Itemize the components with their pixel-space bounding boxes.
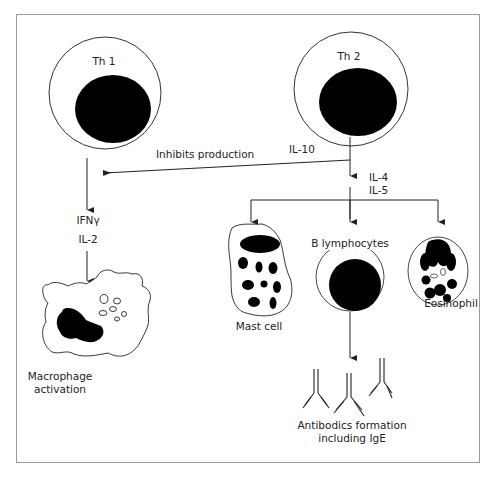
il5-label: IL-5 (369, 184, 388, 197)
b-lymphocytes-label: B lymphocytes (310, 237, 390, 250)
diagram-canvas (0, 0, 495, 479)
macrophage-label-line1: Macrophage (28, 370, 93, 383)
antibodies-label-line2: including IgE (318, 432, 386, 445)
th2-label: Th 2 (337, 50, 360, 63)
macrophage-label-line2: activation (34, 383, 86, 396)
il2-label: IL-2 (78, 233, 97, 246)
il10-inhibit-arrow (104, 160, 350, 173)
mast-cell-icon (229, 224, 292, 316)
eosinophil-label: Eosinophil (424, 297, 478, 310)
ifn-gamma-label: IFNγ (76, 214, 99, 227)
il4-label: IL-4 (369, 171, 388, 184)
antibodies-label-line1: Antibodics formation (297, 419, 406, 432)
macrophage-icon (43, 270, 151, 356)
inhibits-production-label: Inhibits production (156, 148, 254, 161)
il10-label: IL-10 (289, 143, 315, 156)
antibodies-icon (303, 358, 392, 416)
mast-cell-label: Mast cell (236, 320, 283, 333)
eosinophil-icon (408, 237, 468, 305)
th1-cell-icon (49, 37, 161, 149)
b-lymphocyte-icon (316, 243, 384, 311)
th1-label: Th 1 (92, 55, 115, 68)
